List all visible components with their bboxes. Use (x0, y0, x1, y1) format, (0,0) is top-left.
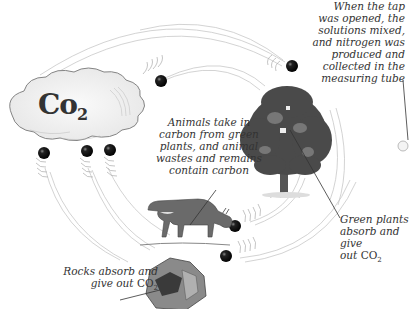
plants-line: Green plants (340, 213, 411, 225)
animals-annotation: Animals take in carbon from green plants… (144, 116, 274, 176)
rocks-line-text: give out (91, 277, 134, 289)
rocks-annotation: Rocks absorb and give out CO2 (38, 265, 158, 294)
carbon-cycle-diagram: Co2 When the tap was opened, the solutio… (0, 0, 411, 309)
tap-line: produced and (265, 48, 405, 60)
co2-cloud-label: Co2 (38, 88, 87, 121)
tap-line: solutions mixed, (265, 24, 405, 36)
plants-chem: CO (361, 249, 378, 261)
co2-label-main: Co (38, 88, 77, 121)
plants-line: absorb and give (340, 225, 411, 249)
tap-annotation: When the tap was opened, the solutions m… (265, 0, 405, 84)
animals-line: wastes and remains (144, 152, 274, 164)
tap-line: collected in the (265, 60, 405, 72)
tap-line: and nitrogen was (265, 36, 405, 48)
tap-line: measuring tube (265, 72, 405, 84)
cow-illustration (140, 199, 232, 245)
rocks-line: give out CO2 (38, 277, 158, 294)
co2-label-subscript: 2 (77, 105, 87, 124)
plants-line-text: out (340, 249, 357, 261)
plants-annotation: Green plants absorb and give out CO2 (340, 213, 411, 266)
tap-line: was opened, the (265, 12, 405, 24)
animals-line: contain carbon (144, 164, 274, 176)
plants-chem-sub: 2 (377, 256, 381, 264)
tap-line: When the tap (265, 0, 405, 12)
animals-line: carbon from green (144, 128, 274, 140)
rocks-chem: CO (137, 277, 154, 289)
rocks-line: Rocks absorb and (38, 265, 158, 277)
rocks-chem-sub: 2 (154, 284, 158, 292)
animals-line: Animals take in (144, 116, 274, 128)
tube-outlet (398, 141, 408, 151)
animals-line: plants, and animal (144, 140, 274, 152)
plants-line: out CO2 (340, 249, 411, 266)
